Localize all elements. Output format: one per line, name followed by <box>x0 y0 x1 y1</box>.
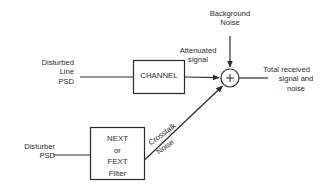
total-received-label: Total receivedsignal and noise <box>263 65 329 93</box>
attenuated-signal-wire <box>185 77 220 78</box>
channel-block-label: CHANNEL <box>133 71 185 80</box>
diagram-canvas <box>0 0 336 194</box>
crosstalk-filter-block-label: NEXT or FEXT Filter <box>90 133 145 179</box>
background-noise-label: Background Noise <box>198 9 262 28</box>
disturber-psd-label: Disturber PSD <box>5 142 55 161</box>
block-diagram: CHANNEL NEXT or FEXT Filter Disturbed Li… <box>0 0 336 194</box>
total-received-first-line: Total received <box>263 65 329 74</box>
attenuated-signal-label: Attenuated signal <box>174 46 222 65</box>
total-received-rest-lines: signal and noise <box>279 74 314 92</box>
disturbed-line-psd-label: Disturbed Line PSD <box>20 58 74 86</box>
